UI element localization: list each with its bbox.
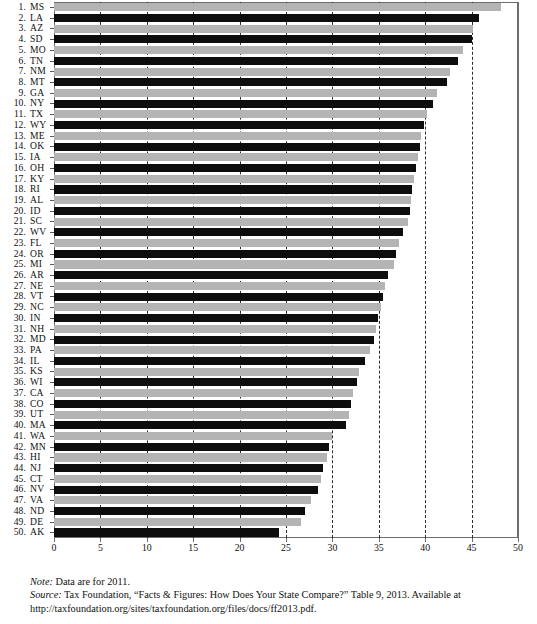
row-state-label: LA: [30, 12, 49, 23]
row-state-label: MS: [30, 1, 49, 12]
row-rank: 8.: [0, 76, 26, 87]
bar: [54, 453, 327, 461]
axis-label-25: 25: [271, 542, 301, 554]
bar: [54, 443, 329, 451]
axis-label-50: 50: [503, 542, 533, 554]
bar-row: 31.NH: [0, 324, 537, 335]
row-rank: 25.: [0, 258, 26, 269]
bar: [54, 68, 450, 76]
bar: [54, 196, 411, 204]
row-rank: 26.: [0, 269, 26, 280]
row-rank: 32.: [0, 333, 26, 344]
row-state-label: DE: [30, 516, 49, 527]
bar: [54, 346, 370, 354]
bar-row: 2.LA: [0, 13, 537, 24]
bar: [54, 293, 383, 301]
axis-label-15: 15: [178, 542, 208, 554]
bar: [54, 368, 359, 376]
bar-row: 6.TN: [0, 56, 537, 67]
row-state-label: NM: [30, 65, 49, 76]
bar: [54, 400, 351, 408]
bar: [54, 207, 410, 215]
bar-row: 26.AR: [0, 270, 537, 281]
row-state-label: ME: [30, 130, 49, 141]
bar: [54, 496, 311, 504]
row-state-label: NE: [30, 280, 49, 291]
row-state-label: IA: [30, 151, 49, 162]
row-rank: 48.: [0, 505, 26, 516]
bar-row: 15.IA: [0, 152, 537, 163]
row-state-label: NJ: [30, 462, 49, 473]
row-state-label: CO: [30, 398, 49, 409]
row-state-label: NC: [30, 301, 49, 312]
row-rank: 47.: [0, 494, 26, 505]
bar-row: 16.OH: [0, 163, 537, 174]
row-state-label: AR: [30, 269, 49, 280]
row-rank: 42.: [0, 441, 26, 452]
row-state-label: WI: [30, 376, 49, 387]
bar: [54, 228, 403, 236]
bar: [54, 239, 399, 247]
bar-row: 34.IL: [0, 356, 537, 367]
bar: [54, 132, 421, 140]
row-rank: 43.: [0, 451, 26, 462]
row-state-label: MA: [30, 419, 49, 430]
bar: [54, 421, 346, 429]
row-rank: 17.: [0, 173, 26, 184]
row-state-label: WY: [30, 119, 49, 130]
bar-row: 47.VA: [0, 495, 537, 506]
row-rank: 34.: [0, 355, 26, 366]
bar: [54, 507, 305, 515]
note-line: Note: Data are for 2011.: [30, 575, 520, 588]
row-rank: 13.: [0, 130, 26, 141]
bar-row: 49.DE: [0, 517, 537, 528]
bar: [54, 528, 279, 536]
source-body: Tax Foundation, “Facts & Figures: How Do…: [30, 589, 461, 613]
row-rank: 23.: [0, 237, 26, 248]
axis-label-5: 5: [85, 542, 115, 554]
row-rank: 29.: [0, 301, 26, 312]
bar: [54, 218, 408, 226]
row-rank: 10.: [0, 97, 26, 108]
row-state-label: CT: [30, 473, 49, 484]
axis-label-10: 10: [132, 542, 162, 554]
bar-row: 42.MN: [0, 442, 537, 453]
bar: [54, 357, 365, 365]
bar-row: 33.PA: [0, 345, 537, 356]
bar: [54, 110, 427, 118]
bar: [54, 3, 501, 11]
bar-row: 36.WI: [0, 377, 537, 388]
bar-row: 48.ND: [0, 506, 537, 517]
bar: [54, 271, 388, 279]
row-state-label: ND: [30, 505, 49, 516]
row-state-label: IL: [30, 355, 49, 366]
bar-row: 11.TX: [0, 109, 537, 120]
row-state-label: MO: [30, 44, 49, 55]
bar: [54, 378, 357, 386]
row-state-label: NH: [30, 323, 49, 334]
row-rank: 19.: [0, 194, 26, 205]
row-rank: 22.: [0, 226, 26, 237]
row-state-label: HI: [30, 451, 49, 462]
bar: [54, 432, 332, 440]
bar: [54, 411, 349, 419]
row-state-label: MI: [30, 258, 49, 269]
row-rank: 12.: [0, 119, 26, 130]
row-state-label: SD: [30, 33, 49, 44]
row-state-label: FL: [30, 237, 49, 248]
bar: [54, 325, 376, 333]
row-state-label: PA: [30, 344, 49, 355]
row-rank: 18.: [0, 183, 26, 194]
bar: [54, 518, 301, 526]
bar-row: 23.FL: [0, 238, 537, 249]
row-state-label: AZ: [30, 22, 49, 33]
bar: [54, 14, 479, 22]
row-state-label: OH: [30, 162, 49, 173]
bar-row: 35.KS: [0, 366, 537, 377]
bar-row: 37.CA: [0, 388, 537, 399]
bar-row: 29.NC: [0, 302, 537, 313]
axis-label-45: 45: [457, 542, 487, 554]
row-state-label: VT: [30, 290, 49, 301]
bar-row: 30.IN: [0, 313, 537, 324]
bar: [54, 100, 433, 108]
